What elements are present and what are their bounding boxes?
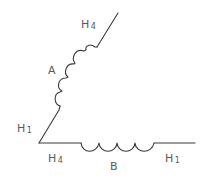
winding-a-lower-lead — [39, 106, 60, 143]
terminal-letter: H — [48, 152, 57, 165]
terminal-index: 1 — [175, 156, 181, 165]
terminal-index: 4 — [58, 156, 64, 165]
winding-a-upper-lead — [97, 13, 118, 47]
winding-label-a: A — [48, 65, 56, 76]
terminal-index: 1 — [27, 126, 33, 135]
winding-label-b: B — [110, 161, 118, 172]
winding-b-coil — [81, 143, 154, 151]
terminal-letter: H — [81, 18, 90, 31]
terminal-letter: H — [165, 152, 174, 165]
terminal-label-b-h4: H4 — [48, 153, 63, 164]
terminal-label-b-h1: H1 — [165, 153, 180, 164]
terminal-letter: H — [17, 122, 26, 135]
terminal-label-a-h4: H4 — [81, 19, 96, 30]
winding-a-coil — [55, 45, 97, 106]
terminal-label-a-h1: H1 — [17, 123, 32, 134]
terminal-index: 4 — [91, 22, 97, 31]
